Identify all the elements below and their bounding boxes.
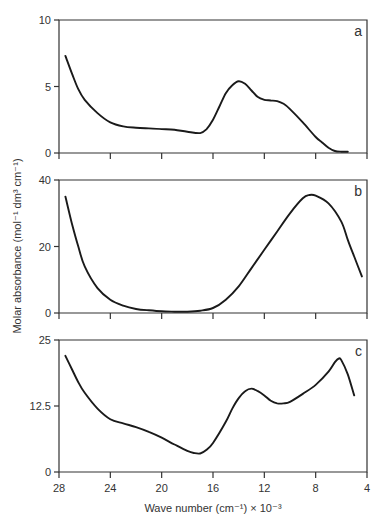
y-tick-label: 0 [45,307,51,319]
panel-c: 2512.50282420161284c [30,334,370,494]
series-line-b [65,195,362,312]
panel-label: c [355,343,362,359]
x-tick-label: 16 [207,482,219,494]
panel-b: 40200b [39,174,367,319]
series-line-c [65,356,354,454]
y-tick-label: 0 [45,147,51,159]
x-axis-title: Wave number (cm⁻¹) × 10⁻³ [144,502,282,514]
panel-a: 1050a [39,14,367,159]
y-tick-label: 5 [45,81,51,93]
x-tick-label: 8 [313,482,319,494]
plot-frame [59,340,367,472]
series-line-a [65,56,347,152]
x-tick-label: 20 [156,482,168,494]
y-axis-title: Molar absorbance (mol⁻¹ dm³ cm⁻¹) [11,158,23,333]
panel-label: b [354,183,362,199]
y-tick-label: 0 [45,466,51,478]
y-tick-label: 10 [39,14,51,26]
x-tick-label: 28 [53,482,65,494]
y-tick-label: 12.5 [30,400,51,412]
plot-frame [59,180,367,313]
y-tick-label: 40 [39,174,51,186]
plot-frame [59,20,367,153]
absorbance-chart: 1050a40200b2512.50282420161284cMolar abs… [0,0,381,523]
x-tick-label: 24 [104,482,116,494]
y-tick-label: 25 [39,334,51,346]
x-tick-label: 12 [258,482,270,494]
panel-label: a [354,23,362,39]
x-tick-label: 4 [364,482,370,494]
y-tick-label: 20 [39,241,51,253]
